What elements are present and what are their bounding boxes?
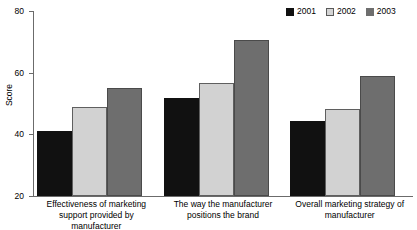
category-label-2-line-1: Overall marketing strategy of [295,199,404,209]
category-label-2-line-2: manufacturer [288,210,411,221]
bar-2001-group-2 [290,121,325,196]
bar-2003-group-2 [360,76,395,196]
y-tick-label-20: 20 [0,192,24,201]
category-label-2: Overall marketing strategy of manufactur… [286,199,413,230]
bar-2002-group-1 [199,83,234,196]
y-tick-mark-20 [29,196,33,197]
bar-2001-group-1 [164,98,199,196]
plot-area [33,11,413,196]
bar-2001-group-0 [37,131,72,196]
bar-2002-group-2 [325,109,360,196]
bar-2002-group-0 [72,107,107,196]
y-axis-title: Score [4,72,14,118]
y-tick-label-60: 60 [0,69,24,78]
y-tick-label-40: 40 [0,130,24,139]
x-axis-line [33,196,413,197]
bar-chart: 2001 2002 2003 Score 20406080 Effectiven… [0,0,417,230]
category-label-1: The way the manufacturer positions the b… [160,199,287,230]
x-axis-category-labels: Effectiveness of marketing support provi… [33,199,413,230]
category-label-1-line-1: The way the manufacturer [174,199,273,209]
category-label-0: Effectiveness of marketing support provi… [33,199,160,230]
bar-2003-group-0 [107,88,142,196]
bar-2003-group-1 [234,40,269,196]
y-tick-label-80: 80 [0,7,24,16]
category-label-0-line-1: Effectiveness of marketing [47,199,147,209]
category-label-0-line-2: support provided by manufacturer [35,210,158,230]
category-label-1-line-2: positions the brand [162,210,285,221]
